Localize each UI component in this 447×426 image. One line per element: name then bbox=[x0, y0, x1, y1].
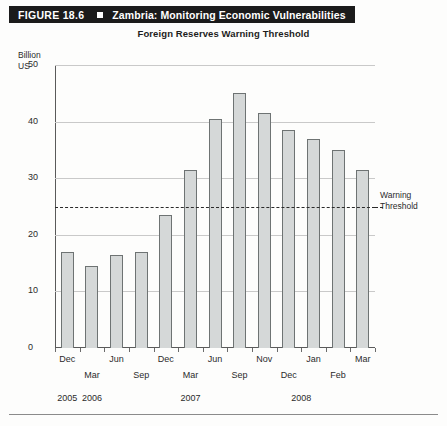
x-tick-mark bbox=[375, 348, 376, 352]
warning-threshold-label-line1: Warning bbox=[380, 190, 418, 201]
bar bbox=[307, 139, 320, 348]
y-tick-label-40: 40 bbox=[28, 116, 46, 126]
warning-threshold-leader-line bbox=[375, 207, 383, 208]
x-axis-label: Feb bbox=[330, 370, 346, 380]
warning-threshold-line bbox=[55, 207, 375, 208]
x-tick-mark bbox=[252, 348, 253, 352]
x-axis-label: Jun bbox=[208, 354, 223, 364]
x-tick-mark bbox=[227, 348, 228, 352]
bar bbox=[282, 130, 295, 348]
bar bbox=[110, 255, 123, 348]
x-axis-year-label: 2008 bbox=[291, 393, 311, 403]
chart-title: Foreign Reserves Warning Threshold bbox=[0, 28, 447, 39]
x-tick-mark bbox=[326, 348, 327, 352]
x-axis-label: Jan bbox=[306, 354, 321, 364]
x-tick-mark bbox=[277, 348, 278, 352]
bottom-divider bbox=[9, 414, 438, 415]
figure-header-bar: FIGURE 18.6 Zambria: Monitoring Economic… bbox=[9, 6, 355, 23]
x-axis-label: Dec bbox=[158, 354, 174, 364]
x-axis-label: Jun bbox=[109, 354, 124, 364]
bar bbox=[85, 266, 98, 348]
x-axis-label: Mar bbox=[84, 370, 100, 380]
bar bbox=[258, 113, 271, 348]
x-tick-mark bbox=[350, 348, 351, 352]
bar bbox=[184, 170, 197, 348]
bar bbox=[209, 119, 222, 348]
x-axis-label: Sep bbox=[133, 370, 149, 380]
y-tick-label-50: 50 bbox=[28, 59, 46, 69]
warning-threshold-label: Warning Threshold bbox=[380, 190, 418, 211]
x-tick-mark bbox=[55, 348, 56, 352]
y-tick-label-0: 0 bbox=[28, 342, 46, 352]
y-tick-label-30: 30 bbox=[28, 172, 46, 182]
x-tick-mark bbox=[129, 348, 130, 352]
bar bbox=[233, 93, 246, 348]
x-axis-year-label: 2006 bbox=[82, 393, 102, 403]
x-axis-label: Sep bbox=[232, 370, 248, 380]
bar bbox=[135, 252, 148, 348]
x-axis-year-label: 2007 bbox=[180, 393, 200, 403]
x-axis-label: Dec bbox=[59, 354, 75, 364]
bar bbox=[332, 150, 345, 348]
gridline-50 bbox=[55, 65, 375, 66]
plot-area bbox=[55, 65, 375, 348]
y-tick-label-10: 10 bbox=[28, 285, 46, 295]
x-axis-label: Mar bbox=[355, 354, 371, 364]
bar bbox=[61, 252, 74, 348]
x-tick-mark bbox=[301, 348, 302, 352]
x-tick-mark bbox=[154, 348, 155, 352]
bar bbox=[159, 215, 172, 348]
bar bbox=[356, 170, 369, 348]
figure-number: FIGURE 18.6 bbox=[18, 9, 84, 21]
x-axis-year-label: 2005 bbox=[57, 393, 77, 403]
x-axis-label: Nov bbox=[256, 354, 272, 364]
x-tick-mark bbox=[178, 348, 179, 352]
warning-threshold-label-line2: Threshold bbox=[380, 201, 418, 212]
x-tick-mark bbox=[203, 348, 204, 352]
filled-square-icon bbox=[97, 12, 103, 18]
x-tick-mark bbox=[80, 348, 81, 352]
x-tick-mark bbox=[104, 348, 105, 352]
figure-page: FIGURE 18.6 Zambria: Monitoring Economic… bbox=[0, 0, 447, 426]
figure-title: Zambria: Monitoring Economic Vulnerabili… bbox=[112, 9, 345, 21]
y-tick-label-20: 20 bbox=[28, 229, 46, 239]
x-axis-label: Dec bbox=[281, 370, 297, 380]
x-axis-label: Mar bbox=[183, 370, 199, 380]
